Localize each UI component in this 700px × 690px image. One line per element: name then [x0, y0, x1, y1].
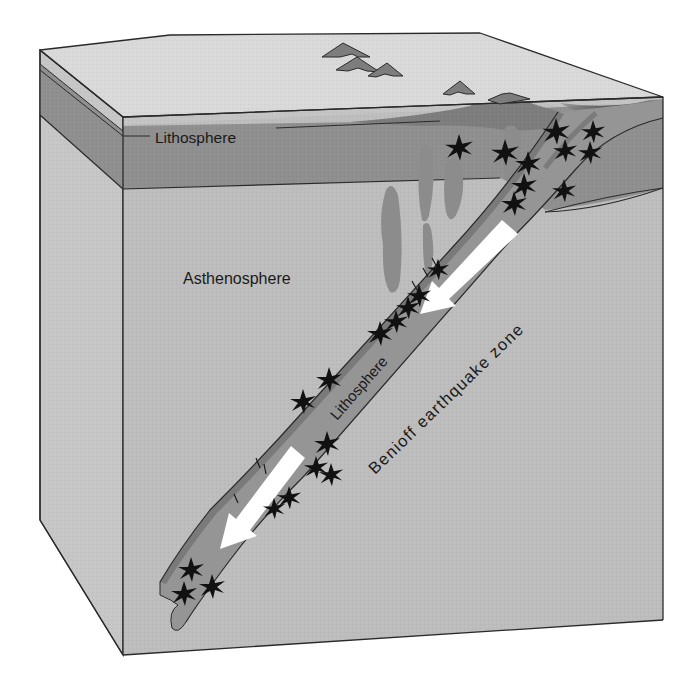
- asthenosphere-label: Asthenosphere: [183, 270, 291, 287]
- left-face: [40, 50, 123, 655]
- subduction-block-diagram: Lithosphere Asthenosphere Lithosphere Be…: [0, 0, 700, 690]
- lithosphere-label: Lithosphere: [155, 129, 236, 146]
